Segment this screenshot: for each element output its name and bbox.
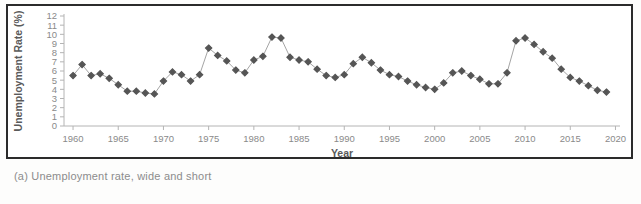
data-point <box>115 82 121 88</box>
data-point <box>404 78 410 84</box>
chart-frame: 0123456789101112 19601965197019751980198… <box>6 4 633 159</box>
data-point <box>395 73 401 79</box>
data-point <box>269 34 275 40</box>
figure-caption: (a) Unemployment rate, wide and short <box>14 170 212 182</box>
data-point <box>124 88 130 94</box>
y-axis: 0123456789101112 <box>46 10 64 131</box>
x-tick-label: 2005 <box>469 133 490 144</box>
data-point <box>287 54 293 60</box>
x-tick-label: 1970 <box>153 133 174 144</box>
data-point <box>413 82 419 88</box>
data-point <box>576 78 582 84</box>
data-point <box>603 89 609 95</box>
data-point <box>296 57 302 63</box>
data-point <box>178 72 184 78</box>
x-tick-label: 2000 <box>424 133 445 144</box>
data-point <box>142 90 148 96</box>
data-point <box>323 72 329 78</box>
data-point <box>251 57 257 63</box>
unemployment-rate-chart: 0123456789101112 19601965197019751980198… <box>8 6 631 157</box>
figure-container: 0123456789101112 19601965197019751980198… <box>0 0 641 204</box>
x-tick-label: 2020 <box>605 133 626 144</box>
data-point <box>260 53 266 59</box>
data-point <box>187 78 193 84</box>
x-tick-label: 1965 <box>108 133 129 144</box>
data-point <box>97 71 103 77</box>
x-tick-label: 2015 <box>560 133 581 144</box>
data-point <box>106 75 112 81</box>
x-tick-label: 1980 <box>243 133 264 144</box>
x-axis-title: Year <box>331 147 353 157</box>
data-point <box>513 38 519 44</box>
x-tick-label: 2010 <box>515 133 536 144</box>
x-tick-label: 1985 <box>288 133 309 144</box>
data-point <box>432 86 438 92</box>
data-point <box>133 88 139 94</box>
y-tick-label: 12 <box>46 10 57 21</box>
data-point <box>486 81 492 87</box>
data-point <box>332 74 338 80</box>
data-point <box>242 70 248 76</box>
data-point <box>459 68 465 74</box>
data-series-unemployment-rate <box>70 34 610 97</box>
x-tick-label: 1960 <box>62 133 83 144</box>
data-point <box>423 84 429 90</box>
x-tick-label: 1995 <box>379 133 400 144</box>
data-point <box>468 72 474 78</box>
x-tick-label: 1975 <box>198 133 219 144</box>
y-axis-title: Unemployment Rate (%) <box>12 11 24 132</box>
data-point <box>585 83 591 89</box>
x-tick-label: 1990 <box>334 133 355 144</box>
data-point <box>278 35 284 41</box>
data-point <box>477 76 483 82</box>
data-point <box>197 72 203 78</box>
x-axis: 1960196519701975198019851990199520002005… <box>62 126 626 144</box>
data-point <box>359 54 365 60</box>
data-point <box>151 91 157 97</box>
data-point <box>522 35 528 41</box>
data-point <box>386 72 392 78</box>
data-point <box>594 87 600 93</box>
